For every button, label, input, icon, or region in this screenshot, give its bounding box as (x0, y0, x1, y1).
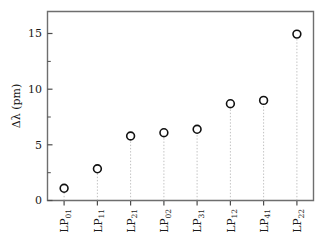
data-point (160, 129, 168, 137)
delta-lambda-scatter-chart: 0 5 10 15 Δλ (pm) (0, 0, 330, 245)
y-axis-label-unit: (pm) (10, 84, 23, 114)
data-point (94, 165, 102, 173)
y-axis-label-symbol: Δλ (10, 113, 23, 128)
ytick-label: 10 (28, 83, 42, 96)
ytick-label: 0 (35, 194, 42, 207)
data-point (193, 125, 201, 133)
data-point (60, 184, 68, 192)
data-point (293, 30, 301, 38)
data-point (260, 97, 268, 105)
y-axis-label: Δλ (pm) (10, 84, 23, 128)
data-point (127, 132, 135, 140)
ytick-label: 5 (35, 139, 42, 152)
svg-text:Δλ (pm): Δλ (pm) (10, 84, 23, 128)
data-point (227, 100, 235, 108)
chart-background (0, 0, 330, 245)
ytick-label: 15 (28, 27, 42, 40)
